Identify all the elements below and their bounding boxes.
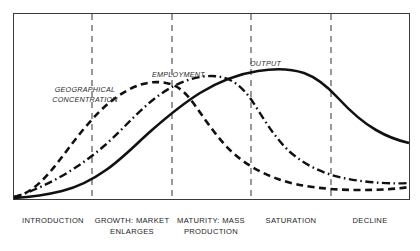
stage-label-growth-line1: GROWTH: MARKET xyxy=(95,216,170,225)
product-life-cycle-chart: GEOGRAPHICAL CONCENTRATION EMPLOYMENT OU… xyxy=(0,0,420,251)
stage-label-saturation: SATURATION xyxy=(266,216,317,225)
annotation-employment: EMPLOYMENT xyxy=(152,70,205,79)
stage-label-introduction: INTRODUCTION xyxy=(22,216,84,225)
stage-label-growth-line2: ENLARGES xyxy=(110,227,154,236)
stage-label-decline: DECLINE xyxy=(352,216,387,225)
stage-label-maturity-line1: MATURITY: MASS xyxy=(177,216,245,225)
chart-plot-area: GEOGRAPHICAL CONCENTRATION EMPLOYMENT OU… xyxy=(0,0,420,251)
annotation-geographical-concentration-line2: CONCENTRATION xyxy=(52,95,118,104)
annotation-geographical-concentration-line1: GEOGRAPHICAL xyxy=(55,85,116,94)
chart-frame xyxy=(14,14,410,200)
annotation-output: OUTPUT xyxy=(250,59,281,68)
stage-label-maturity-line2: PRODUCTION xyxy=(184,227,238,236)
